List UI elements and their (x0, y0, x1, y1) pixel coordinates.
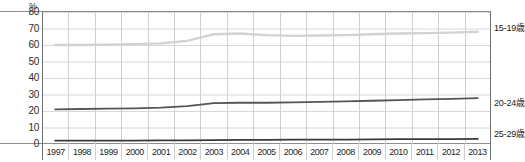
y-axis-tick-labels: 80706050403020100 (0, 0, 39, 162)
y-axis-tick-10: 10 (5, 123, 39, 133)
x-axis-tick-2006: 2006 (280, 144, 306, 160)
x-axis-tick-2012: 2012 (438, 144, 464, 160)
x-axis-tick-2007: 2007 (307, 144, 333, 160)
x-axis-tick-2003: 2003 (201, 144, 227, 160)
chart-canvas (42, 12, 491, 144)
y-axis-tick-80: 80 (5, 7, 39, 17)
plot-area (42, 12, 491, 144)
series-line-25-29歳 (55, 139, 478, 141)
y-axis-tick-50: 50 (5, 57, 39, 67)
x-axis-tick-1998: 1998 (69, 144, 95, 160)
series-label-20-24歳: 20-24歳 (494, 99, 525, 108)
x-axis-tick-2011: 2011 (412, 144, 438, 160)
series-line-20-24歳 (55, 98, 478, 109)
x-axis-tick-2002: 2002 (175, 144, 201, 160)
x-axis-tick-labels: 1997199819992000200120022003200420052006… (42, 144, 491, 160)
x-axis-tick-2010: 2010 (386, 144, 412, 160)
y-axis-tick-60: 60 (5, 40, 39, 50)
x-axis-tick-2013: 2013 (465, 144, 490, 160)
x-axis-tick-2005: 2005 (254, 144, 280, 160)
x-axis-tick-2000: 2000 (122, 144, 148, 160)
y-axis-tick-70: 70 (5, 24, 39, 34)
x-axis-tick-2001: 2001 (148, 144, 174, 160)
y-axis-tick-40: 40 (5, 73, 39, 83)
y-axis-tick-30: 30 (5, 90, 39, 100)
x-axis-tick-2009: 2009 (359, 144, 385, 160)
y-axis-tick-0: 0 (5, 139, 39, 149)
series-line-15-19歳 (55, 32, 478, 45)
x-axis-tick-2008: 2008 (333, 144, 359, 160)
series-label-25-29歳: 25-29歳 (494, 130, 525, 139)
x-axis-tick-2004: 2004 (228, 144, 254, 160)
x-axis-tick-1999: 1999 (96, 144, 122, 160)
series-label-15-19歳: 15-19歳 (494, 24, 525, 33)
y-axis-tick-20: 20 (5, 106, 39, 116)
x-axis-tick-1997: 1997 (43, 144, 69, 160)
